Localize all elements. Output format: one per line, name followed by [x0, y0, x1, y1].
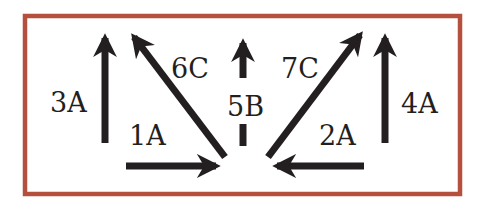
arrow-diagram: 3A 6C 5B 7C 4A 1A 2A	[0, 0, 483, 210]
label-2A: 2A	[319, 120, 356, 151]
label-6C: 6C	[171, 53, 209, 84]
label-4A: 4A	[401, 88, 438, 119]
label-5B: 5B	[227, 91, 264, 122]
label-1A: 1A	[129, 120, 166, 151]
label-7C: 7C	[281, 53, 319, 84]
label-3A: 3A	[50, 87, 87, 118]
